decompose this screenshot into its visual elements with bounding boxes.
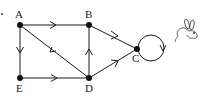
node-d [86, 75, 92, 81]
arrow-b-c-icon [111, 31, 118, 39]
node-label-a: A [15, 8, 23, 20]
arrow-d-a-icon [50, 47, 56, 52]
node-label-d: D [85, 82, 93, 94]
node-label-c: C [132, 52, 139, 64]
node-label-e: E [16, 82, 23, 94]
edge-b-c [89, 25, 137, 49]
stray-mark [1, 13, 3, 15]
rabbit-icon [175, 19, 197, 42]
directed-graph: A B C D E [0, 0, 210, 97]
node-b [86, 22, 92, 28]
arrow-c-loop-icon [160, 45, 166, 51]
edge-d-c [89, 49, 137, 78]
edge-c-c-loop [138, 35, 164, 61]
node-e [17, 75, 23, 81]
node-a [17, 22, 23, 28]
node-label-b: B [85, 8, 92, 20]
